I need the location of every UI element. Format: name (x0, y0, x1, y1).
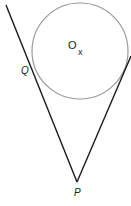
center-label-o: O (68, 39, 77, 51)
geometry-diagram: O x Q P (0, 0, 131, 206)
tangent-line-left (6, 5, 77, 182)
tangent-line-right (77, 56, 131, 182)
center-mark-x: x (78, 47, 83, 57)
point-label-q: Q (21, 65, 29, 76)
point-label-p: P (74, 187, 81, 198)
